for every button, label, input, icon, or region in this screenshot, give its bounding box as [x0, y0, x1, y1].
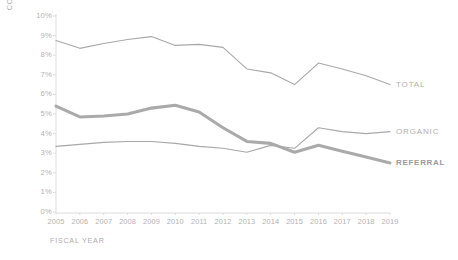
series-lines — [56, 37, 390, 163]
series-label-referral: REFERRAL — [396, 158, 445, 168]
series-line-organic — [56, 128, 390, 153]
series-label-organic: ORGANIC — [396, 127, 439, 137]
series-line-referral — [56, 105, 390, 163]
series-line-total — [56, 37, 390, 85]
conversion-rate-line-chart: CONVERSION RATE FISCAL YEAR 0%1%2%3%4%5%… — [0, 0, 458, 260]
series-label-total: TOTAL — [396, 80, 425, 90]
plot-area — [0, 0, 458, 260]
